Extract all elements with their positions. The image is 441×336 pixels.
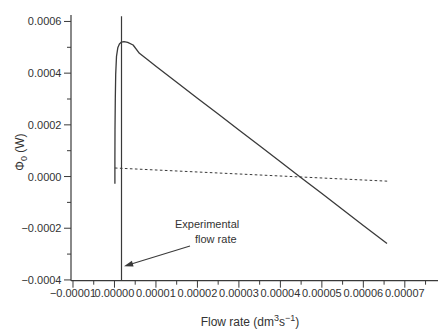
y-tick-label: 0.0002 [28, 119, 62, 131]
annotation-arrow [124, 246, 190, 267]
x-tick-label: 0.00006 [343, 287, 383, 299]
y-tick-label: −0.0002 [21, 222, 61, 234]
x-tick-label: 0.00005 [302, 287, 342, 299]
annotation-text-line2: flow rate [195, 233, 237, 245]
x-tick-label: 0.00003 [219, 287, 259, 299]
tick-labels: −0.000010.000000.000010.000020.000030.00… [21, 15, 424, 299]
x-tick-label: 0.00004 [260, 287, 300, 299]
x-tick-label: 0.00007 [385, 287, 425, 299]
y-tick-label: 0.0000 [28, 171, 62, 183]
chart-canvas: −0.000010.000000.000010.000020.000030.00… [0, 0, 441, 336]
x-axis-title: Flow rate (dm3s−1) [150, 313, 350, 329]
x-tick-label: 0.00000 [95, 287, 135, 299]
x-tick-label: 0.00001 [136, 287, 176, 299]
y-tick-label: 0.0006 [28, 15, 62, 27]
y-tick-label: −0.0004 [21, 274, 61, 286]
tick-marks [64, 21, 426, 287]
y-axis-title: Φ0 (W) [13, 112, 29, 192]
figure: −0.000010.000000.000010.000020.000030.00… [0, 0, 441, 336]
x-tick-label: 0.00002 [178, 287, 218, 299]
y-axis-symbol: Φ [13, 161, 27, 171]
y-tick-label: 0.0004 [28, 67, 62, 79]
power-curve [115, 42, 387, 244]
data-series [115, 16, 388, 280]
y-axis-unit: (W) [13, 133, 27, 156]
annotation-text-line1: Experimental [175, 218, 239, 230]
arrow-shaft [131, 246, 191, 264]
x-tick-label: −0.00001 [50, 287, 96, 299]
arrow-head-icon [124, 261, 134, 267]
reference-line [115, 168, 388, 181]
y-axis-subscript: 0 [19, 156, 29, 161]
